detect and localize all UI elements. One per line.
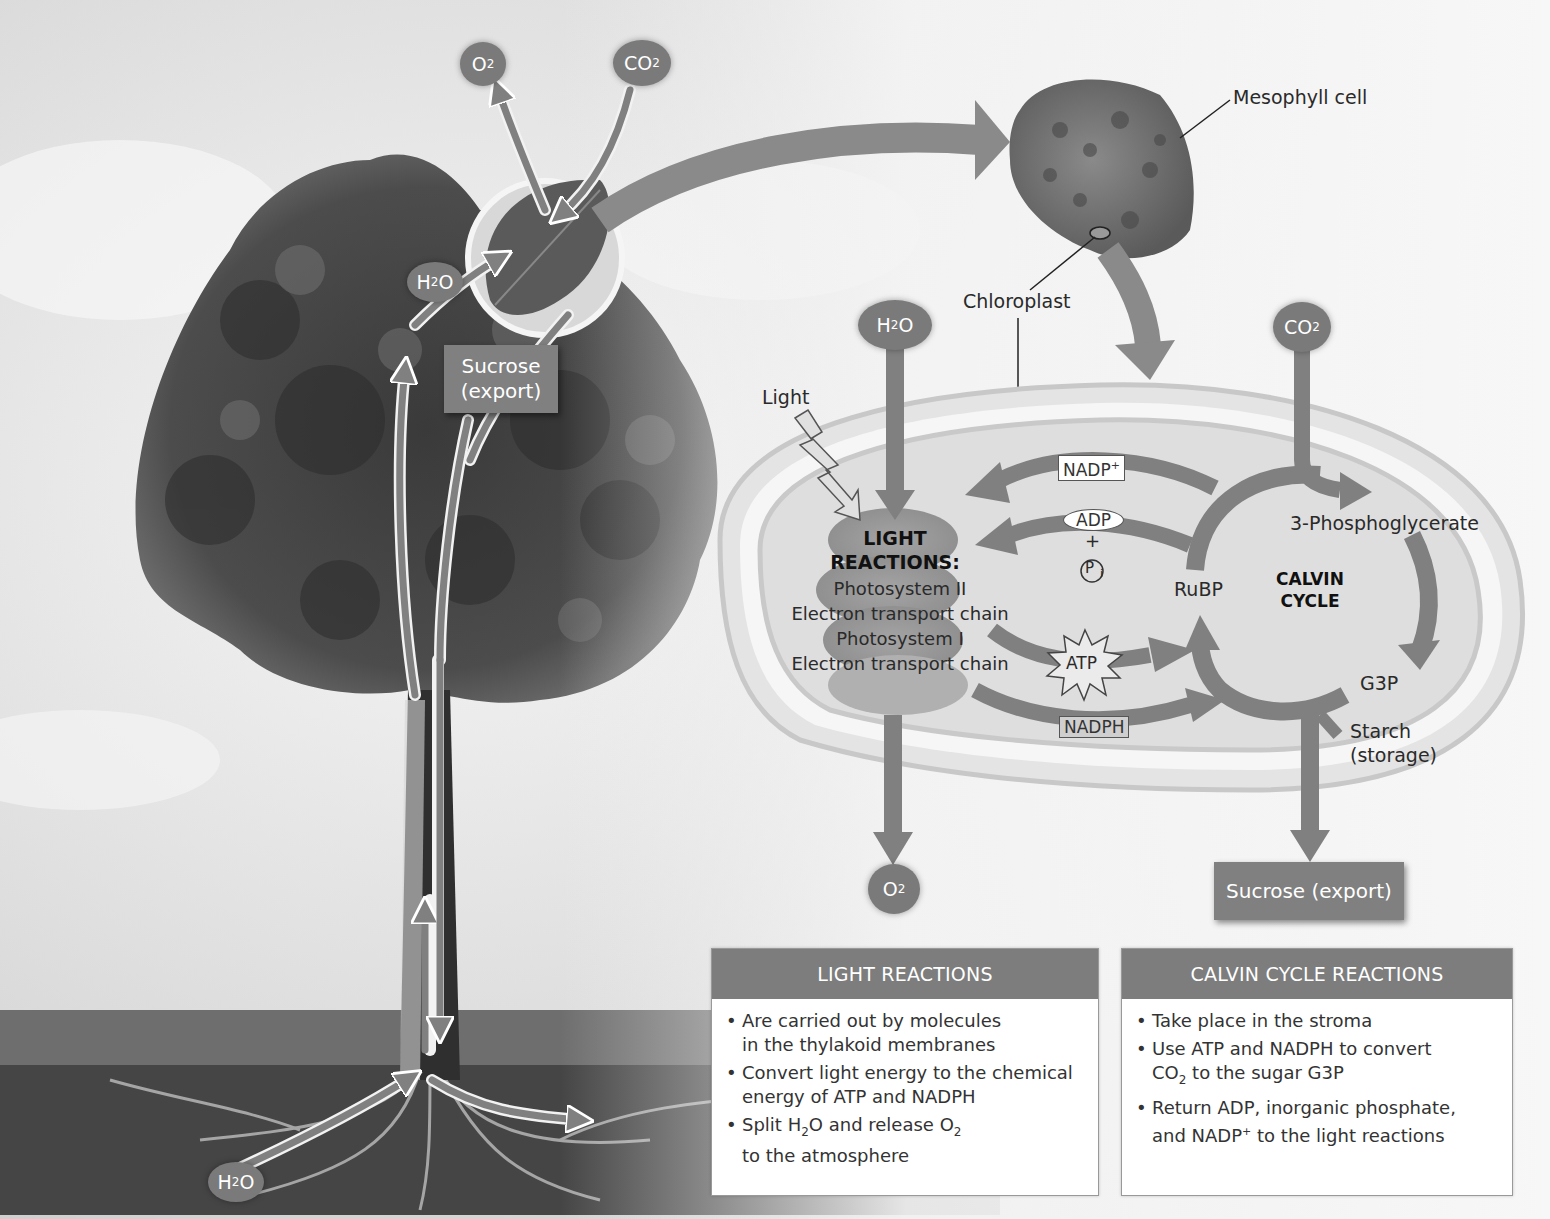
light-panel-header: LIGHT REACTIONS [712,949,1098,999]
atp-label: ATP [1066,653,1097,673]
adp-tag: ADP [1063,509,1124,531]
o2-top-sub: 2 [487,57,495,71]
sucrose-export-box: Sucrose (export) [1214,862,1404,920]
calvin-b1-l1: Take place in the stroma [1152,1009,1512,1033]
light-b2-l1: Convert light energy to the chemical [742,1061,1098,1085]
h2o-leaf-pill: H2O [407,262,463,302]
calvin-bullet-1: Take place in the stroma [1136,1009,1512,1033]
h2o-root-o: O [239,1171,254,1193]
sucrose-line1: Sucrose [461,354,540,379]
photosystem-ii: Photosystem II [780,576,1020,601]
etc-2: Electron transport chain [780,651,1020,676]
light-b3-a: Split H [742,1114,801,1135]
calvin-panel-header: CALVIN CYCLE REACTIONS [1122,949,1512,999]
starch-1: Starch [1350,719,1437,743]
calvin-title-1: CALVIN [1255,568,1365,590]
calvin-b2-a: CO [1152,1062,1179,1083]
calvin-reactions-panel: CALVIN CYCLE REACTIONS Take place in the… [1121,948,1513,1196]
h2o-in-o: O [898,314,913,336]
nadp-plus-sup: + [1111,459,1120,472]
pi-sub: i [1100,567,1103,580]
calvin-b2-l1: Use ATP and NADPH to convert [1152,1037,1512,1061]
light-label: Light [762,386,809,408]
calvin-b3-a: and NADP [1152,1125,1242,1146]
calvin-panel-list: Take place in the stroma Use ATP and NAD… [1122,1009,1512,1148]
pga-label: 3-Phosphoglycerate [1290,512,1479,534]
light-components-list: Photosystem II Electron transport chain … [780,576,1020,676]
calvin-b2-b: to the sugar G3P [1186,1062,1343,1083]
co2-top-sub: 2 [652,56,660,70]
calvin-cycle-title: CALVIN CYCLE [1255,568,1365,612]
h2o-in-pill: H2O [858,300,932,350]
calvin-b2-l2: CO2 to the sugar G3P [1152,1061,1512,1092]
calvin-bullet-3: Return ADP, inorganic phosphate, and NAD… [1136,1096,1512,1148]
light-b3-b: O and release O [809,1114,954,1135]
nadph-tag: NADPH [1059,716,1129,738]
pi-label: Pi [1085,559,1097,580]
light-title-1: LIGHT [830,526,960,550]
calvin-title-2: CYCLE [1255,590,1365,612]
co2-top-pill: CO2 [613,40,671,86]
chloroplast-label: Chloroplast [963,290,1071,312]
light-reactions-title: LIGHT REACTIONS: [830,526,960,574]
light-title-2: REACTIONS: [830,550,960,574]
h2o-leaf-h: H [417,271,431,293]
h2o-leaf-sub: 2 [431,275,439,289]
h2o-in-h: H [877,314,891,336]
calvin-b3-l2: and NADP+ to the light reactions [1152,1120,1512,1148]
light-b2-l2: energy of ATP and NADPH [742,1085,1098,1109]
calvin-b3-b: to the light reactions [1251,1125,1444,1146]
light-b3-sub1: 2 [801,1125,809,1139]
co2-top-label: CO [624,52,652,74]
calvin-b3-l1: Return ADP, inorganic phosphate, [1152,1096,1512,1120]
co2-in-sub: 2 [1312,320,1320,334]
nadp-plus-text: NADP [1063,460,1111,480]
light-b3-l2: to the atmosphere [742,1144,1098,1168]
light-reactions-panel: LIGHT REACTIONS Are carried out by molec… [711,948,1099,1196]
nadp-plus-tag: NADP+ [1058,455,1125,481]
light-bullet-2: Convert light energy to the chemical ene… [726,1061,1098,1109]
h2o-in-sub: 2 [891,318,899,332]
sucrose-export-tree-box: Sucrose (export) [444,345,558,413]
calvin-bullet-2: Use ATP and NADPH to convert CO2 to the … [1136,1037,1512,1092]
light-b3-l1: Split H2O and release O2 [742,1113,1098,1144]
o2-out-sub: 2 [898,882,906,896]
light-b1-l2: in the thylakoid membranes [742,1033,1098,1057]
light-b3-sub2: 2 [954,1125,962,1139]
photosystem-i: Photosystem I [780,626,1020,651]
o2-out-label: O [883,878,898,900]
h2o-leaf-o: O [438,271,453,293]
plus-sign: + [1085,530,1100,551]
o2-top-pill: O2 [460,42,506,86]
co2-in-label: CO [1284,316,1312,338]
etc-1: Electron transport chain [780,601,1020,626]
light-panel-list: Are carried out by molecules in the thyl… [712,1009,1098,1168]
pi-p: P [1085,559,1094,577]
light-b1-l1: Are carried out by molecules [742,1009,1098,1033]
light-bullet-3: Split H2O and release O2 to the atmosphe… [726,1113,1098,1168]
h2o-root-sub: 2 [232,1175,240,1189]
o2-out-pill: O2 [868,864,920,914]
o2-top-label: O [472,53,487,75]
light-bullet-1: Are carried out by molecules in the thyl… [726,1009,1098,1057]
h2o-root-pill: H2O [208,1162,264,1202]
g3p-label: G3P [1360,672,1398,694]
starch-2: (storage) [1350,743,1437,767]
photosynthesis-diagram: O2 CO2 H2O Sucrose (export) H2O Mesophyl… [0,0,1550,1219]
rubp-label: RuBP [1174,578,1223,600]
starch-label: Starch (storage) [1350,719,1437,767]
calvin-b3-sup: + [1242,1125,1251,1138]
h2o-root-h: H [218,1171,232,1193]
mesophyll-cell-label: Mesophyll cell [1233,86,1367,108]
sucrose-line2: (export) [461,379,541,404]
co2-in-pill: CO2 [1273,302,1331,352]
